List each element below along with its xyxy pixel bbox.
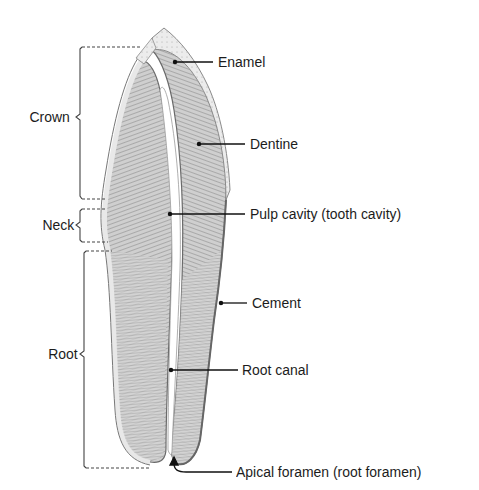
tooth-left-half bbox=[101, 58, 172, 465]
label-pulp-cavity: Pulp cavity (tooth cavity) bbox=[250, 205, 401, 223]
label-neck: Neck bbox=[42, 216, 74, 234]
label-enamel: Enamel bbox=[218, 53, 265, 71]
label-crown: Crown bbox=[30, 108, 70, 126]
label-root: Root bbox=[49, 345, 78, 363]
label-root-canal: Root canal bbox=[242, 361, 309, 379]
label-dentine: Dentine bbox=[250, 135, 298, 153]
label-apical-foramen: Apical foramen (root foramen) bbox=[236, 463, 421, 481]
tooth-illustration bbox=[0, 0, 479, 490]
label-cement: Cement bbox=[252, 294, 301, 312]
